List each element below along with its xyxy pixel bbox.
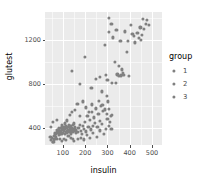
legend-key-swatch bbox=[168, 91, 179, 102]
data-point bbox=[115, 29, 118, 32]
gridline-minor-vertical bbox=[141, 12, 142, 145]
data-point bbox=[141, 18, 144, 21]
scatter-plot-figure: 100200300400500 4008001200 insulin glute… bbox=[0, 0, 213, 181]
y-tick-label: 1200 bbox=[24, 36, 41, 44]
gridline-major-vertical bbox=[152, 12, 153, 145]
data-point bbox=[92, 116, 95, 119]
data-point bbox=[143, 28, 146, 31]
data-point bbox=[129, 24, 132, 27]
data-point bbox=[117, 64, 120, 67]
legend-item[interactable]: 1 bbox=[168, 64, 213, 77]
data-point bbox=[111, 113, 114, 116]
data-point bbox=[140, 34, 143, 37]
data-point bbox=[97, 99, 100, 102]
data-point bbox=[72, 122, 75, 125]
legend-item[interactable]: 3 bbox=[168, 90, 213, 103]
y-tick-label: 800 bbox=[29, 80, 41, 88]
data-point bbox=[125, 51, 128, 54]
legend-items: 123 bbox=[168, 64, 213, 103]
legend-point-icon bbox=[172, 95, 175, 98]
data-point bbox=[111, 36, 114, 39]
x-tick-mark bbox=[107, 145, 108, 148]
x-tick-mark bbox=[130, 145, 131, 148]
y-tick-mark bbox=[43, 40, 46, 41]
legend-item-label: 3 bbox=[183, 93, 187, 101]
data-point bbox=[103, 108, 106, 111]
data-point bbox=[104, 44, 107, 47]
y-tick-label: 400 bbox=[29, 124, 41, 132]
data-point bbox=[86, 114, 89, 117]
legend-item-label: 1 bbox=[183, 67, 187, 75]
legend-item-label: 2 bbox=[183, 80, 187, 88]
data-point bbox=[97, 112, 100, 115]
x-tick-label: 300 bbox=[101, 149, 113, 157]
legend: group 123 bbox=[168, 52, 213, 103]
data-point bbox=[102, 132, 105, 135]
data-point bbox=[72, 139, 75, 142]
data-point bbox=[108, 30, 111, 33]
legend-key-swatch bbox=[168, 65, 179, 76]
legend-title: group bbox=[168, 52, 213, 61]
data-point bbox=[68, 114, 71, 117]
data-point bbox=[73, 109, 76, 112]
data-point bbox=[106, 78, 109, 81]
x-tick-mark bbox=[152, 145, 153, 148]
data-point bbox=[113, 60, 116, 63]
data-point bbox=[123, 30, 126, 33]
x-tick-label: 200 bbox=[79, 149, 91, 157]
x-tick-label: 400 bbox=[123, 149, 135, 157]
data-point bbox=[108, 121, 111, 124]
data-point bbox=[55, 119, 58, 122]
data-point bbox=[120, 68, 123, 71]
data-point bbox=[79, 115, 82, 118]
data-point bbox=[88, 136, 91, 139]
data-point bbox=[120, 74, 123, 77]
data-point bbox=[81, 100, 84, 103]
data-point bbox=[66, 119, 69, 122]
legend-point-icon bbox=[172, 69, 175, 72]
data-point bbox=[95, 135, 98, 138]
data-point bbox=[99, 129, 102, 132]
data-point bbox=[108, 107, 111, 110]
data-point bbox=[90, 87, 93, 90]
y-tick-mark bbox=[43, 128, 46, 129]
plot-panel bbox=[45, 12, 162, 145]
gridline-major-horizontal bbox=[45, 84, 162, 85]
legend-key-swatch bbox=[168, 78, 179, 89]
data-point bbox=[119, 39, 122, 42]
data-point bbox=[99, 76, 102, 79]
data-point bbox=[85, 106, 88, 109]
data-point bbox=[107, 16, 110, 19]
data-point bbox=[140, 39, 143, 42]
x-tick-label: 500 bbox=[146, 149, 158, 157]
gridline-major-horizontal bbox=[45, 40, 162, 41]
y-tick-mark bbox=[43, 84, 46, 85]
data-point bbox=[100, 90, 103, 93]
data-point bbox=[88, 118, 91, 121]
data-point bbox=[84, 121, 87, 124]
legend-point-icon bbox=[172, 82, 175, 85]
data-point bbox=[78, 83, 81, 86]
x-tick-label: 100 bbox=[57, 149, 69, 157]
x-tick-mark bbox=[85, 145, 86, 148]
data-point bbox=[65, 138, 68, 141]
x-axis-title: insulin bbox=[45, 166, 162, 175]
x-tick-mark bbox=[63, 145, 64, 148]
data-point bbox=[110, 22, 113, 25]
gridline-major-vertical bbox=[85, 12, 86, 145]
gridline-minor-vertical bbox=[119, 12, 120, 145]
data-point bbox=[106, 100, 109, 103]
y-axis-title: glutest bbox=[5, 37, 14, 97]
data-point bbox=[110, 128, 113, 131]
data-point bbox=[52, 140, 55, 143]
data-point bbox=[136, 31, 139, 34]
data-point bbox=[92, 131, 95, 134]
data-point bbox=[134, 41, 137, 44]
legend-item[interactable]: 2 bbox=[168, 77, 213, 90]
data-point bbox=[90, 110, 93, 113]
data-point bbox=[145, 19, 148, 22]
data-point bbox=[100, 122, 103, 125]
data-point bbox=[76, 102, 79, 105]
data-point bbox=[147, 24, 150, 27]
